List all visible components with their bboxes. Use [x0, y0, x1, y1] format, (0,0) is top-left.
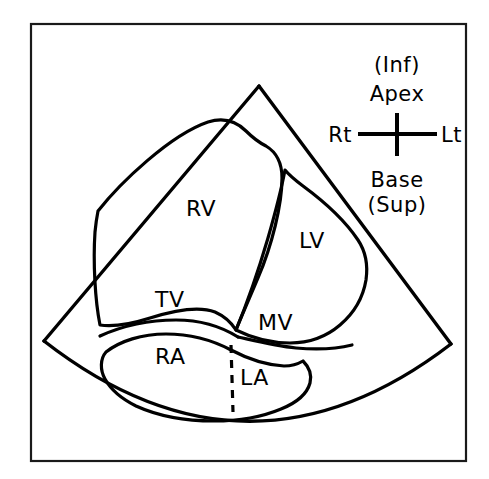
echocardiogram-figure: RV LV RA LA TV MV (Inf) Apex Rt Lt Base … — [0, 0, 489, 479]
right-ventricle-outline — [94, 120, 282, 330]
compass-base-label: Base — [370, 168, 423, 192]
compass-left-label: Lt — [441, 123, 462, 147]
right-ventricle-label: RV — [186, 196, 216, 221]
compass-superior-label: (Sup) — [368, 193, 427, 217]
compass-apex-label: Apex — [370, 82, 425, 106]
diagram-canvas: RV LV RA LA TV MV (Inf) Apex Rt Lt Base … — [0, 0, 489, 479]
compass-right-label: Rt — [328, 123, 352, 147]
compass-inferior-label: (Inf) — [374, 53, 420, 77]
av-valve-plane — [100, 320, 352, 349]
left-ventricle-outline — [236, 170, 367, 343]
mitral-valve-label: MV — [258, 310, 293, 335]
orientation-compass: (Inf) Apex Rt Lt Base (Sup) — [328, 53, 462, 217]
sector-left-edge — [44, 86, 259, 341]
tricuspid-valve-label: TV — [154, 287, 185, 312]
left-ventricle-label: LV — [299, 228, 325, 253]
left-atrium-label: LA — [240, 365, 269, 390]
interatrial-septum-dashed-line — [231, 345, 233, 412]
right-atrium-label: RA — [155, 344, 185, 369]
